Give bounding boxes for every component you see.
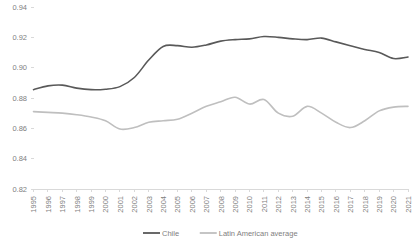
series-line-chile bbox=[34, 37, 409, 90]
x-axis-tick-label: 1997 bbox=[58, 196, 67, 213]
x-axis-tick-label: 2017 bbox=[346, 196, 355, 213]
x-axis-tick-label: 2011 bbox=[260, 196, 269, 212]
y-axis-tick-marks bbox=[31, 7, 34, 189]
x-axis-tick-label: 2016 bbox=[332, 196, 341, 213]
line-chart: 0.820.840.860.880.900.920.94 19951996199… bbox=[0, 0, 414, 246]
x-axis-tick-label: 2021 bbox=[404, 196, 413, 213]
x-axis-tick-label: 2014 bbox=[303, 196, 312, 213]
x-axis-tick-label: 2006 bbox=[188, 196, 197, 213]
chart-legend: ChileLatin American average bbox=[143, 229, 298, 238]
y-axis-tick-label: 0.82 bbox=[12, 185, 27, 194]
x-axis-tick-label: 2001 bbox=[116, 196, 125, 213]
series-lines bbox=[34, 37, 409, 130]
y-axis-tick-label: 0.86 bbox=[12, 124, 27, 133]
y-axis-tick-label: 0.90 bbox=[12, 63, 27, 72]
y-axis-tick-label: 0.88 bbox=[12, 94, 27, 103]
x-axis-tick-label: 2003 bbox=[145, 196, 154, 213]
x-axis-tick-label: 1998 bbox=[73, 196, 82, 213]
legend-label-0: Chile bbox=[162, 229, 179, 238]
x-axis-tick-label: 2015 bbox=[317, 196, 326, 213]
x-axis-tick-label: 2013 bbox=[289, 196, 298, 213]
x-axis-tick-label: 1999 bbox=[87, 196, 96, 213]
x-axis-tick-label: 2005 bbox=[173, 196, 182, 213]
x-axis-tick-labels: 1995199619971998199920002001200220032004… bbox=[29, 196, 413, 213]
y-axis-tick-labels: 0.820.840.860.880.900.920.94 bbox=[12, 3, 27, 194]
series-line-latin-american-average bbox=[34, 97, 409, 129]
x-axis-tick-label: 2008 bbox=[217, 196, 226, 213]
x-axis-tick-label: 2000 bbox=[101, 196, 110, 213]
x-axis-tick-label: 2007 bbox=[202, 196, 211, 213]
y-axis-tick-label: 0.92 bbox=[12, 33, 27, 42]
x-axis-tick-label: 2012 bbox=[274, 196, 283, 213]
legend-label-1: Latin American average bbox=[219, 229, 298, 238]
chart-canvas: 0.820.840.860.880.900.920.94 19951996199… bbox=[0, 0, 414, 246]
x-axis-tick-label: 2019 bbox=[375, 196, 384, 213]
y-axis-tick-label: 0.94 bbox=[12, 3, 27, 12]
y-axis-tick-label: 0.84 bbox=[12, 154, 27, 163]
x-axis-tick-label: 2018 bbox=[361, 196, 370, 213]
x-axis-tick-label: 2002 bbox=[130, 196, 139, 213]
x-axis-tick-label: 1996 bbox=[44, 196, 53, 213]
x-axis-tick-label: 2009 bbox=[231, 196, 240, 213]
x-axis-tick-label: 2020 bbox=[389, 196, 398, 213]
x-axis-tick-label: 1995 bbox=[29, 196, 38, 213]
x-axis-tick-label: 2004 bbox=[159, 196, 168, 213]
x-axis-tick-label: 2010 bbox=[245, 196, 254, 213]
